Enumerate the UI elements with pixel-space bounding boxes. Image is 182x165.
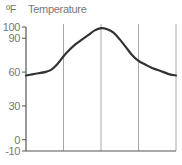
y-tick-label: 30 (9, 100, 21, 112)
y-tick-label: 60 (9, 66, 21, 78)
temperature-chart: ºF Temperature 1009060300-10 (0, 0, 182, 165)
y-tick-label: -10 (5, 145, 20, 157)
y-tick-label: 90 (9, 32, 21, 44)
y-tick-label: 100 (3, 21, 20, 33)
y-tick-label: 0 (14, 134, 20, 146)
unit-label: ºF (6, 3, 16, 15)
chart-title: Temperature (28, 3, 86, 15)
plot-area: 1009060300-10 (0, 0, 182, 165)
